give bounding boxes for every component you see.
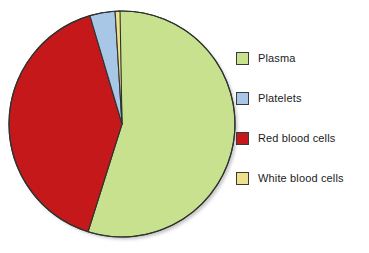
legend-swatch-red-blood-cells <box>236 132 249 145</box>
legend-label-plasma: Plasma <box>258 52 296 65</box>
legend-swatch-plasma <box>236 52 249 65</box>
legend-item-red-blood-cells[interactable]: Red blood cells <box>236 130 335 146</box>
chart-legend: Plasma Platelets Red blood cells White b… <box>236 46 369 176</box>
pie-chart-svg <box>0 0 245 253</box>
pie-slice-paths <box>9 11 235 237</box>
legend-item-white-blood-cells[interactable]: White blood cells <box>236 170 344 186</box>
legend-label-red-blood-cells: Red blood cells <box>258 132 335 145</box>
legend-item-platelets[interactable]: Platelets <box>236 90 302 106</box>
legend-swatch-white-blood-cells <box>236 172 249 185</box>
legend-item-plasma[interactable]: Plasma <box>236 50 296 66</box>
chart-page: Plasma Platelets Red blood cells White b… <box>0 0 369 253</box>
legend-swatch-platelets <box>236 92 249 105</box>
pie-chart <box>0 0 245 253</box>
legend-label-platelets: Platelets <box>258 92 302 105</box>
legend-label-white-blood-cells: White blood cells <box>258 172 344 185</box>
